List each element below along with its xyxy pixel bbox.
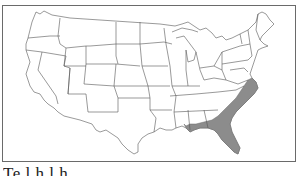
us-range-map [0, 0, 302, 176]
figure-caption: Te l h l h [3, 164, 68, 176]
us-outline [26, 11, 274, 154]
